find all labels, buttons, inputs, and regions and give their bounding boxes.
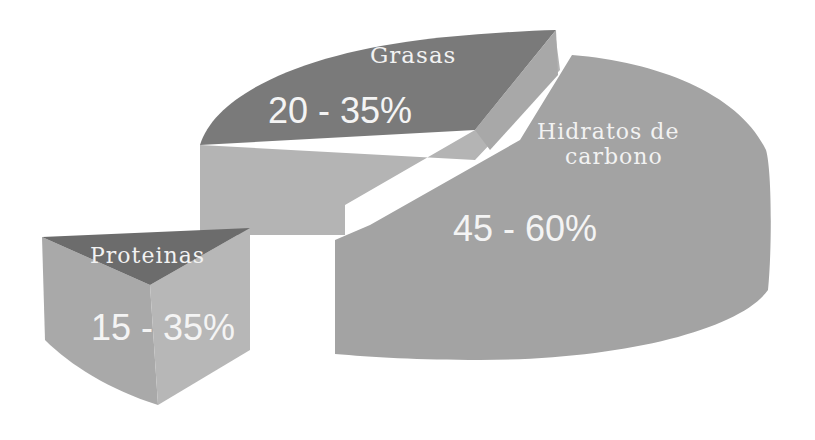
slice-proteinas-label: Proteinas [90,243,205,268]
slice-proteinas: Proteinas 15 - 35% [42,228,250,405]
slice-grasas-label: Grasas [370,42,456,68]
slice-hidratos-label-line2: carbono [565,144,663,169]
macronutrient-pie-chart: Grasas 20 - 35% Hidratos de carbono 45 -… [0,0,815,440]
slice-hidratos-range: 45 - 60% [453,208,597,249]
slice-hidratos-label-line1: Hidratos de [537,119,679,144]
slice-grasas-range: 20 - 35% [268,90,412,131]
slice-proteinas-range: 15 - 35% [91,307,235,348]
